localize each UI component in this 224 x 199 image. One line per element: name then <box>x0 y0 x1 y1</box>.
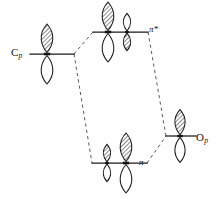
orbital-pi-star-1-lower-lobe <box>123 33 130 51</box>
correlation-line-pi-to-op <box>147 136 166 163</box>
orbital-pi-0-upper-lobe <box>103 144 110 162</box>
correlation-line-cp-to-pi <box>74 54 92 163</box>
orbital-o-p-0-upper-lobe <box>175 110 185 135</box>
correlation-line-pistar-to-op <box>148 32 166 136</box>
label-oxygen-p-symbol: O <box>196 131 204 143</box>
orbital-c-p-0-upper-lobe <box>41 24 53 53</box>
orbital-pi-1-upper-lobe <box>120 133 132 162</box>
orbital-pi-star-0-upper-lobe <box>102 2 114 31</box>
label-carbon-p-subscript: p <box>19 51 23 60</box>
label-carbon-p: Cp <box>11 43 22 60</box>
label-carbon-p-symbol: C <box>11 46 18 58</box>
orbital-lobes-group <box>41 2 185 193</box>
orbital-c-p-0-lower-lobe <box>41 56 53 85</box>
label-oxygen-p: Op <box>196 128 208 145</box>
orbital-pi-star-1-upper-lobe <box>123 13 130 31</box>
label-pi-antibonding: π* <box>149 25 158 34</box>
orbital-pi-star-0-lower-lobe <box>102 34 114 63</box>
label-pi-bonding: π <box>139 158 144 167</box>
mo-diagram-canvas <box>0 0 224 199</box>
orbital-o-p-0-lower-lobe <box>175 137 185 162</box>
label-oxygen-p-subscript: p <box>204 136 208 145</box>
correlation-line-cp-to-pistar <box>74 32 93 54</box>
orbital-pi-0-lower-lobe <box>103 164 110 182</box>
mo-interaction-diagram: Cp Op π* π <box>0 0 224 199</box>
orbital-pi-1-lower-lobe <box>120 165 132 194</box>
